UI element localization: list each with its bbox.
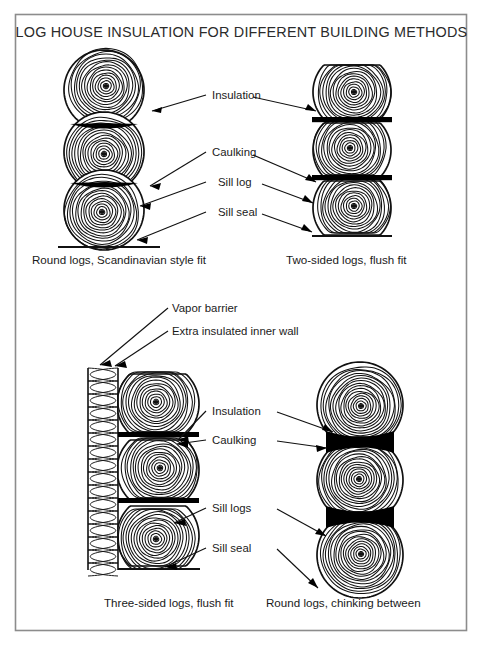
label-vapor-barrier: Vapor barrier: [172, 302, 238, 314]
label-caulking-tl: Caulking: [212, 146, 256, 158]
pith-center: [100, 210, 105, 214]
pith-center: [104, 84, 109, 88]
log-cross-section: [313, 65, 391, 119]
caption-bottom-left: Three-sided logs, flush fit: [104, 596, 234, 609]
pith-center: [158, 466, 163, 470]
log-insulation-diagram: LOG HOUSE INSULATION FOR DIFFERENT BUILD…: [0, 0, 483, 645]
label-sill-seal-bl: Sill seal: [212, 542, 251, 554]
label-insulation-tl: Insulation: [212, 89, 261, 101]
pith-center: [154, 400, 159, 404]
caulking-band: [118, 432, 199, 437]
caulking-band: [118, 498, 199, 503]
label-sill-logs-bl: Sill logs: [212, 502, 252, 514]
pith-center: [352, 90, 357, 94]
label-insulation-bl: Insulation: [212, 405, 261, 417]
log-cross-section: [64, 170, 144, 250]
log-cross-section: [118, 506, 199, 569]
logs-bottom-right: [317, 362, 403, 598]
figure-root: LOG HOUSE INSULATION FOR DIFFERENT BUILD…: [0, 0, 483, 645]
pith-center: [154, 537, 159, 541]
label-sill-seal-tl: Sill seal: [218, 206, 257, 218]
caption-top-left: Round logs, Scandinavian style fit: [32, 253, 207, 266]
page-title: LOG HOUSE INSULATION FOR DIFFERENT BUILD…: [16, 24, 468, 40]
log-cross-section: [313, 179, 391, 235]
pith-center: [359, 404, 364, 408]
log-cross-section: [313, 121, 391, 177]
caulking-band: [312, 117, 392, 122]
caption-top-right: Two-sided logs, flush fit: [286, 253, 407, 266]
pith-center: [352, 204, 357, 208]
caption-bottom-right: Round logs, chinking between: [266, 596, 421, 609]
pith-center: [348, 146, 353, 150]
label-sill-log-tl: Sill log: [218, 176, 252, 188]
label-inner-wall: Extra insulated inner wall: [172, 325, 299, 337]
pith-center: [102, 152, 107, 156]
log-cross-section: [118, 372, 199, 434]
pith-center: [359, 552, 364, 556]
logs-top-right: [312, 65, 392, 236]
pith-center: [357, 477, 362, 481]
caulking-band: [312, 175, 392, 180]
label-caulking-bl: Caulking: [212, 434, 256, 446]
